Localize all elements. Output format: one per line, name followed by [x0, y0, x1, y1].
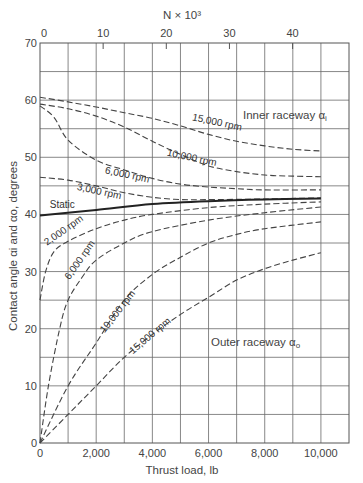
- curve-label: 15,000 rpm: [127, 315, 173, 356]
- contact-angle-chart: 010203040 02,0004,0006,0008,00010,000 01…: [0, 0, 363, 483]
- y-tick-label: 50: [25, 151, 37, 163]
- x-axis-title: Thrust load, lb: [146, 464, 219, 476]
- x-tick-label: 8,000: [251, 447, 279, 459]
- y-tick-label: 0: [31, 437, 37, 449]
- curve-label: 6,000 rpm: [62, 238, 97, 281]
- x-axis: 02,0004,0006,0008,00010,000: [37, 447, 338, 459]
- y-tick-label: 20: [25, 323, 37, 335]
- y-tick-label: 40: [25, 208, 37, 220]
- x-tick-label: 10,000: [304, 447, 338, 459]
- outer-raceway-label: Outer raceway αo: [211, 336, 301, 350]
- curve-label: 6,000 rpm: [104, 164, 150, 184]
- y-axis-title: Contact angle αi and αo, degrees: [7, 161, 19, 331]
- top-tick-label: 30: [223, 27, 235, 39]
- x-tick-label: 2,000: [82, 447, 110, 459]
- x-tick-label: 6,000: [195, 447, 223, 459]
- x2-axis-title: N × 10³: [163, 9, 201, 21]
- top-axis: 010203040: [41, 27, 299, 49]
- curve-label: Static: [50, 199, 75, 210]
- x-tick-label: 0: [37, 447, 43, 459]
- curve-label: 10,000 rpm: [98, 288, 138, 335]
- top-tick-label: 0: [41, 27, 47, 39]
- curve-label: 2,000 rpm: [42, 213, 85, 248]
- y-tick-label: 70: [25, 37, 37, 49]
- y-tick-label: 30: [25, 266, 37, 278]
- top-tick-label: 40: [286, 27, 298, 39]
- curve-label: 10,000 rpm: [166, 147, 218, 168]
- y-tick-label: 10: [25, 380, 37, 392]
- curve-label: 15,000 rpm: [191, 111, 243, 132]
- y-axis: 010203040506070: [25, 37, 37, 449]
- curve-label: 3,000 rpm: [76, 181, 122, 201]
- inner-raceway-label: Inner raceway αi: [243, 109, 327, 123]
- curve-labels: 15,000 rpm10,000 rpm6,000 rpm3,000 rpmSt…: [42, 111, 243, 356]
- y-tick-label: 60: [25, 94, 37, 106]
- x-tick-label: 4,000: [139, 447, 167, 459]
- top-tick-label: 20: [160, 27, 172, 39]
- top-tick-label: 10: [97, 27, 109, 39]
